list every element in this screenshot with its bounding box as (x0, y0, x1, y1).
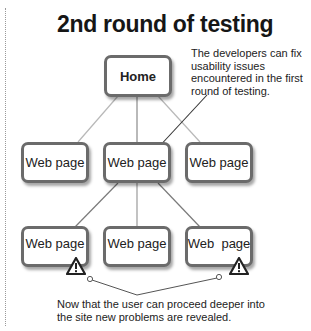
node-label: Web page (25, 236, 84, 251)
node-label: Web page (189, 155, 248, 170)
node-label: Web page (25, 155, 84, 170)
node-level1-middle: Web page (103, 142, 171, 183)
problems-annotation: Now that the user can proceed deeper int… (57, 298, 277, 323)
node-label: Web page (188, 236, 251, 251)
node-label: Web page (107, 236, 166, 251)
warning-triangle-icon (66, 257, 86, 275)
node-level1-left: Web page (21, 142, 89, 183)
warning-triangle-icon (229, 257, 249, 275)
node-label: Web page (107, 155, 166, 170)
fix-annotation: The developers can fix usability issues … (191, 47, 309, 97)
node-home: Home (104, 55, 172, 97)
node-level2-middle: Web page (103, 226, 171, 267)
node-level1-right: Web page (185, 142, 253, 183)
node-home-label: Home (120, 69, 156, 84)
